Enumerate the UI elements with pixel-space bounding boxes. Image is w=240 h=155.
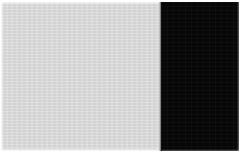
dark-black-panel [161,2,239,151]
dark-panel-right-edge-fade [237,2,239,151]
light-panel-noise-texture [1,2,161,151]
screenshot-canvas [0,0,240,155]
light-panel-top-edge-fade [1,2,161,5]
light-panel-bottom-edge-fade [1,148,161,151]
light-gray-panel [1,2,161,151]
two-tone-content-area [1,2,239,151]
dark-panel-bottom-edge-fade [161,149,239,151]
dark-panel-noise-texture [161,2,239,151]
light-panel-left-edge-fade [1,2,4,151]
